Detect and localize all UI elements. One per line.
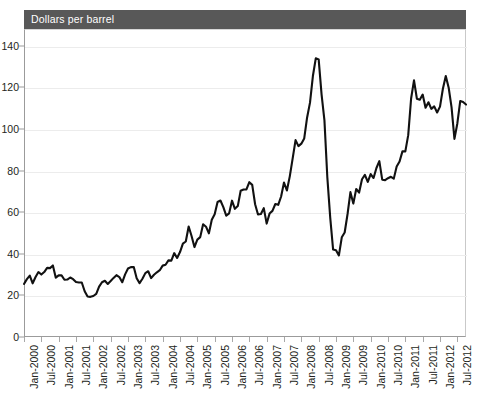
x-axis-tick — [267, 337, 268, 342]
y-axis-tick-label: 140 — [1, 40, 19, 52]
x-axis-tick — [388, 337, 389, 342]
x-axis-tick-label-text: Jan-2010 — [375, 344, 387, 389]
x-axis-tick-label: Jul-2005 — [219, 303, 231, 344]
x-axis-tick-label-text: Jan-2006 — [236, 344, 248, 389]
x-axis-tick-label-text: Jul-2006 — [253, 344, 265, 385]
x-axis-tick — [111, 337, 112, 342]
x-axis-tick-label-text: Jul-2012 — [461, 344, 473, 385]
x-axis-tick-label: Jan-2003 — [132, 299, 144, 344]
x-axis-tick-label-text: Jan-2003 — [132, 344, 144, 389]
x-axis-tick-label-text: Jan-2009 — [340, 344, 352, 389]
x-axis-tick-label: Jul-2010 — [392, 303, 404, 344]
x-axis-tick-label: Jul-2007 — [288, 303, 300, 344]
x-axis-tick-label: Jul-2004 — [184, 303, 196, 344]
x-axis-tick — [215, 337, 216, 342]
y-axis: 020406080100120140 — [0, 29, 22, 337]
x-axis-tick-label: Jul-2002 — [115, 303, 127, 344]
x-axis-tick-label: Jan-2002 — [97, 299, 109, 344]
x-axis-tick — [301, 337, 302, 342]
y-axis-tick-label: 100 — [1, 123, 19, 135]
x-axis-tick — [180, 337, 181, 342]
x-axis-tick — [423, 337, 424, 342]
x-axis-tick-label-text: Jan-2008 — [305, 344, 317, 389]
chart-figure: Crude oil price, 2000–2012 Dollars per b… — [0, 0, 484, 412]
y-axis-tick-label: 80 — [7, 165, 19, 177]
x-axis-tick-label: Jan-2012 — [444, 299, 456, 344]
x-axis-tick-label: Jan-2008 — [305, 299, 317, 344]
x-axis-tick-label: Jan-2007 — [271, 299, 283, 344]
x-axis-tick-label: Jan-2006 — [236, 299, 248, 344]
x-axis-tick-label-text: Jul-2005 — [219, 344, 231, 385]
x-axis-tick-label: Jul-2008 — [323, 303, 335, 344]
x-axis-tick-label: Jul-2003 — [149, 303, 161, 344]
x-axis-tick-label: Jul-2006 — [253, 303, 265, 344]
x-axis-tick-label-text: Jan-2001 — [63, 344, 75, 389]
x-axis-tick — [284, 337, 285, 342]
x-axis-tick — [249, 337, 250, 342]
x-axis-tick-label-text: Jul-2007 — [288, 344, 300, 385]
x-axis-tick-label: Jan-2009 — [340, 299, 352, 344]
x-axis-tick-label-text: Jul-2002 — [115, 344, 127, 385]
x-axis-tick — [59, 337, 60, 342]
series-header-bar: Dollars per barrel — [24, 10, 466, 29]
data-line-chart — [24, 29, 466, 337]
x-axis-tick-label: Jul-2011 — [427, 304, 439, 345]
x-axis-tick-label-text: Jan-2012 — [444, 344, 456, 389]
x-axis-tick-label: Jul-2000 — [45, 303, 57, 344]
x-axis-tick-label-text: Jul-2011 — [427, 344, 439, 385]
x-axis-tick — [24, 337, 25, 342]
y-axis-tick-label: 40 — [7, 248, 19, 260]
x-axis-tick-label: Jan-2000 — [28, 299, 40, 344]
x-axis-labels: Jan-2000Jul-2000Jan-2001Jul-2001Jan-2002… — [24, 344, 476, 412]
x-axis-tick — [440, 337, 441, 342]
x-axis-tick-label-text: Jul-2000 — [45, 344, 57, 385]
x-axis-tick — [76, 337, 77, 342]
x-axis-tick-label-text: Jul-2008 — [323, 344, 335, 385]
x-axis-tick-label-text: Jul-2010 — [392, 344, 404, 385]
x-axis-tick-label: Jul-2009 — [357, 303, 369, 344]
x-axis-tick — [405, 337, 406, 342]
x-axis-tick-label-text: Jan-2004 — [167, 344, 179, 389]
x-axis-tick — [163, 337, 164, 342]
x-axis-tick-label-text: Jan-2007 — [271, 344, 283, 389]
x-axis-tick — [336, 337, 337, 342]
x-axis-tick-label-text: Jan-2002 — [97, 344, 109, 389]
series-polyline — [24, 58, 466, 297]
x-axis-tick — [371, 337, 372, 342]
x-axis-tick-label: Jan-2005 — [201, 299, 213, 344]
x-axis-tick — [145, 337, 146, 342]
x-axis-tick-label: Jul-2001 — [80, 303, 92, 344]
x-axis-tick-label-text: Jan-2011 — [409, 344, 421, 388]
x-axis-tick — [128, 337, 129, 342]
x-axis-tick-label: Jan-2010 — [375, 299, 387, 344]
x-axis-tick-label: Jan-2004 — [167, 299, 179, 344]
x-axis-tick-label-text: Jul-2003 — [149, 344, 161, 385]
x-axis-tick — [457, 337, 458, 342]
x-axis-tick — [197, 337, 198, 342]
x-axis-tick — [353, 337, 354, 342]
x-axis-tick-label: Jan-2011 — [409, 300, 421, 344]
x-axis-tick — [319, 337, 320, 342]
x-axis-tick-label-text: Jul-2001 — [80, 344, 92, 385]
x-axis-tick-label: Jul-2012 — [461, 303, 473, 344]
x-axis-tick-label-text: Jan-2000 — [28, 344, 40, 389]
x-axis-tick — [232, 337, 233, 342]
y-axis-tick-label: 120 — [1, 81, 19, 93]
y-axis-tick-label: 20 — [7, 289, 19, 301]
x-axis-tick-label: Jan-2001 — [63, 299, 75, 344]
x-axis-tick-label-text: Jul-2009 — [357, 344, 369, 385]
x-axis-tick-label-text: Jul-2004 — [184, 344, 196, 385]
y-axis-tick-label: 60 — [7, 206, 19, 218]
x-axis-tick — [93, 337, 94, 342]
x-axis-tick — [41, 337, 42, 342]
x-axis-tick-label-text: Jan-2005 — [201, 344, 213, 389]
